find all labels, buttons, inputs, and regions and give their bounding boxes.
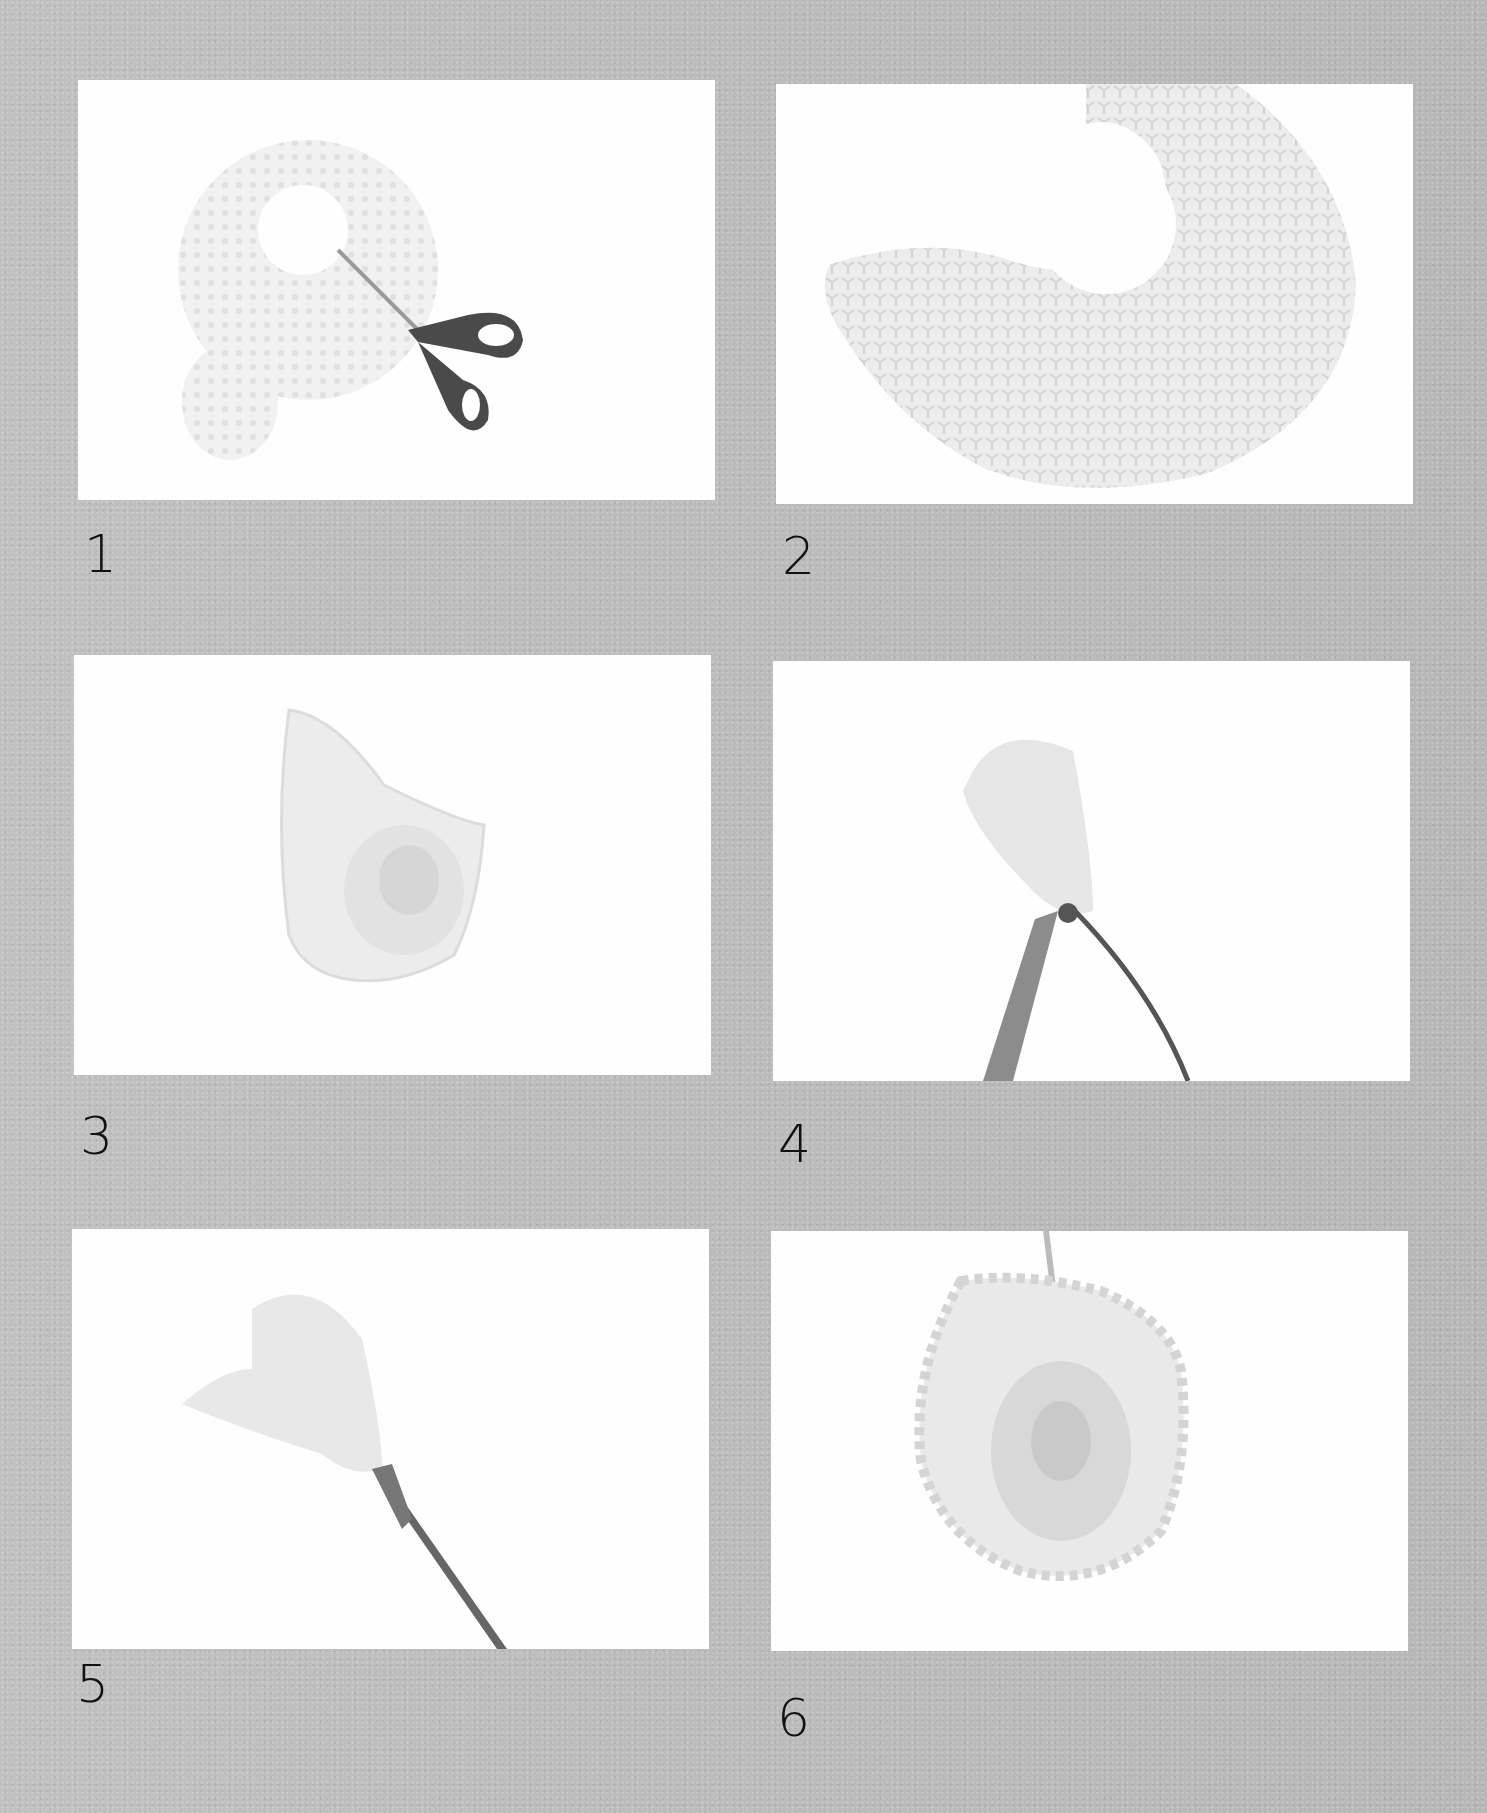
step-3-photo [74,655,711,1075]
step-number-2: 2 [782,530,815,582]
step-number-1: 1 [84,528,117,580]
step-number-3: 3 [80,1110,113,1162]
finished-rose-illustration [771,1231,1408,1651]
step-1-photo [78,80,715,500]
wrapped-stem-illustration [72,1229,709,1649]
step-number-4: 4 [778,1118,811,1170]
cone-tied-with-wire-illustration [773,661,1410,1081]
step-6-photo [771,1231,1408,1651]
doily-with-scissors-illustration [78,80,715,500]
rolled-cone-illustration [74,655,711,1075]
step-number-5: 5 [76,1658,109,1710]
opened-doily-ring-illustration [776,84,1413,504]
step-2-photo [776,84,1413,504]
step-number-6: 6 [777,1692,810,1744]
step-4-photo [773,661,1410,1081]
step-5-photo [72,1229,709,1649]
